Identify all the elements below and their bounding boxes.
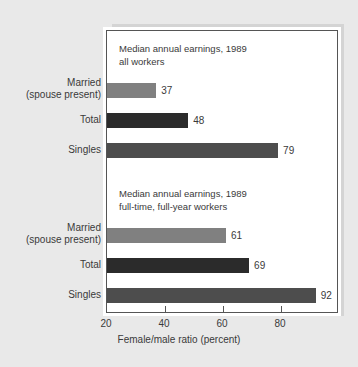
bar bbox=[107, 83, 156, 98]
category-label: Married (spouse present) bbox=[4, 222, 101, 245]
annotation-group-2-line1: Median annual earnings, 1989 bbox=[119, 188, 247, 199]
x-tick-label: 40 bbox=[149, 318, 179, 329]
x-tick bbox=[281, 306, 282, 312]
annotation-group-1: Median annual earnings, 1989 all workers bbox=[119, 43, 247, 68]
bar-value-label: 61 bbox=[231, 228, 242, 243]
bar bbox=[107, 228, 226, 243]
x-tick-label: 60 bbox=[207, 318, 237, 329]
x-tick-label: 80 bbox=[265, 318, 295, 329]
x-axis-title: Female/male ratio (percent) bbox=[0, 334, 358, 345]
bar bbox=[107, 113, 188, 128]
annotation-group-2-line2: full-time, full-year workers bbox=[119, 201, 227, 212]
category-label: Total bbox=[4, 114, 101, 126]
category-label: Married (spouse present) bbox=[4, 77, 101, 100]
bar-value-label: 79 bbox=[283, 143, 294, 158]
bar-value-label: 92 bbox=[321, 288, 332, 303]
bar-value-label: 48 bbox=[193, 113, 204, 128]
bar bbox=[107, 258, 249, 273]
category-label: Singles bbox=[4, 289, 101, 301]
bar bbox=[107, 288, 316, 303]
annotation-group-1-line1: Median annual earnings, 1989 bbox=[119, 43, 247, 54]
x-tick-label: 20 bbox=[91, 318, 121, 329]
category-label: Singles bbox=[4, 144, 101, 156]
x-tick bbox=[165, 306, 166, 312]
plot-area: Median annual earnings, 1989 all workers… bbox=[106, 30, 338, 313]
bar bbox=[107, 143, 278, 158]
annotation-group-1-line2: all workers bbox=[119, 56, 164, 67]
bar-value-label: 37 bbox=[161, 83, 172, 98]
category-label: Total bbox=[4, 259, 101, 271]
chart-figure: Median annual earnings, 1989 all workers… bbox=[0, 0, 358, 367]
x-tick bbox=[223, 306, 224, 312]
bar-value-label: 69 bbox=[254, 258, 265, 273]
annotation-group-2: Median annual earnings, 1989 full-time, … bbox=[119, 188, 247, 213]
